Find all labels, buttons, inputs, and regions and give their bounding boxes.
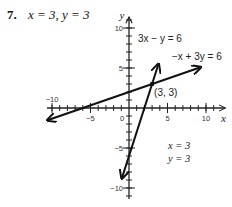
y-tick-label: −10	[110, 184, 123, 193]
series-label-1: 3x − y = 6	[138, 33, 182, 44]
y-tick-label: 5	[119, 64, 123, 73]
intersection-label: (3, 3)	[154, 87, 177, 98]
x-tick-label: 10	[202, 114, 210, 123]
chart: −10−50510−10−5510xy3x − y = 6−x + 3y = 6…	[0, 0, 232, 207]
solution-x: x = 3	[167, 140, 190, 151]
x-tick-label: −5	[86, 114, 95, 123]
x-tick-label: −10	[46, 95, 59, 104]
x-tick-label: 0	[120, 114, 124, 123]
y-tick-label: 10	[115, 24, 123, 33]
series-label-2: −x + 3y = 6	[172, 51, 222, 62]
series-line-1	[122, 65, 158, 178]
x-tick-label: 5	[165, 114, 169, 123]
solution-y: y = 3	[167, 153, 190, 164]
x-axis-label: x	[220, 112, 226, 124]
y-tick-label: −5	[114, 144, 123, 153]
intersection-point	[150, 82, 154, 86]
y-axis-label: y	[119, 9, 125, 21]
